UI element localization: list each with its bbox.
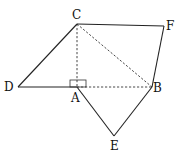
label-C: C: [72, 8, 81, 22]
geometry-diagram: C F D A B E: [0, 0, 180, 157]
right-angle-marker: [70, 80, 86, 87]
label-D: D: [4, 80, 14, 94]
label-E: E: [110, 139, 119, 153]
segment-DC: [18, 24, 77, 87]
segment-AE: [77, 87, 114, 136]
label-B: B: [153, 81, 162, 95]
segment-FB: [152, 26, 164, 87]
segment-CF: [77, 24, 164, 26]
label-A: A: [70, 91, 80, 105]
segment-EB: [114, 87, 152, 136]
label-F: F: [166, 19, 174, 33]
segment-CB-dashed: [77, 24, 152, 87]
